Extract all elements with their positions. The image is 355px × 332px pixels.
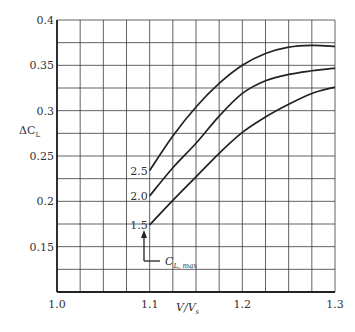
y-tick-label: 0.2 [37, 195, 55, 208]
y-tick-label: 0.25 [30, 150, 55, 163]
curve-label: 2.5 [130, 165, 148, 178]
y-tick-label: 0.3 [37, 105, 55, 118]
curve-label: 2.0 [130, 190, 148, 203]
cl-max-annotation: CL, max [165, 255, 197, 270]
chart: 0.150.20.250.30.350.4 1.01.11.21.3 2.52.… [0, 0, 355, 332]
y-tick-label: 0.15 [30, 241, 55, 254]
curve-labels: 2.52.01.5 [130, 165, 148, 232]
curve-label: 1.5 [130, 219, 148, 232]
grid [57, 20, 335, 292]
x-axis-label: V/Vs [176, 301, 200, 316]
x-tick-label: 1.0 [48, 298, 66, 311]
x-tick-label: 1.3 [326, 298, 344, 311]
x-tick-label: 1.2 [234, 298, 252, 311]
y-tick-label: 0.35 [30, 59, 55, 72]
y-axis-label: ΔCL [19, 124, 40, 139]
y-tick-label: 0.4 [37, 14, 55, 27]
x-tick-label: 1.1 [141, 298, 159, 311]
cl-max-arrow [141, 230, 160, 261]
